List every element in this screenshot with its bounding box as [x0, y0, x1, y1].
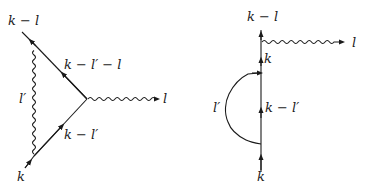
external-photon-wavy	[88, 98, 157, 101]
left-lower-internal-label: k − l′	[64, 128, 98, 141]
right-loop-photon-label: l′	[213, 101, 220, 114]
right-after-loop-label: k	[264, 52, 272, 65]
feynman-diagrams-canvas	[0, 0, 366, 188]
left-external-photon-label: l	[163, 92, 167, 105]
left-loop-photon-label: l′	[19, 92, 26, 105]
left-incoming-label: k	[17, 170, 25, 183]
loop-photon-semicircle	[225, 73, 261, 144]
right-internal-loop-label: k − l′	[265, 101, 299, 114]
left-diagram	[22, 32, 157, 168]
right-outgoing-label: k − l	[247, 10, 278, 23]
right-incoming-label: k	[257, 170, 265, 183]
loop-photon-wavy	[33, 51, 36, 155]
left-outgoing-label: k − l	[8, 14, 39, 27]
external-photon-wavy-right	[262, 41, 342, 44]
left-upper-internal-label: k − l′ − l	[64, 58, 121, 71]
right-external-photon-label: l	[352, 36, 356, 49]
